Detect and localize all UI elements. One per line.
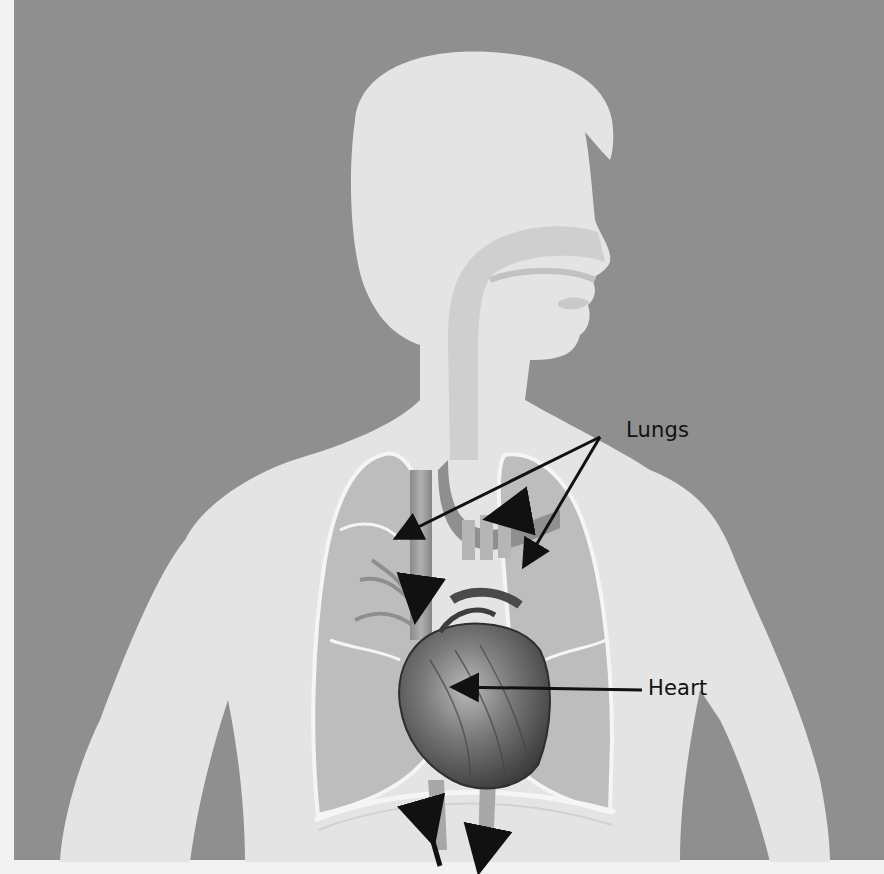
anatomy-illustration	[0, 0, 884, 874]
diagram-canvas: Lungs Heart	[0, 0, 884, 874]
lungs-label: Lungs	[626, 418, 689, 442]
heart-label: Heart	[648, 676, 707, 700]
